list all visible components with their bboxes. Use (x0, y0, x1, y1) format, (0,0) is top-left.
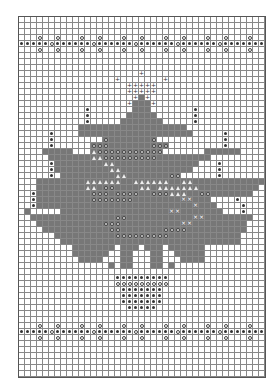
empty-cell (259, 371, 265, 377)
stitch-chart-grid (18, 16, 266, 378)
